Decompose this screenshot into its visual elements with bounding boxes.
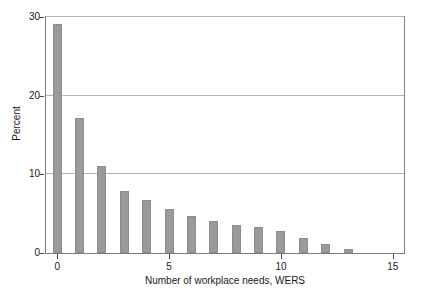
bar-chart-figure: Percent 0102030 051015 Number of workpla… [0,0,430,292]
bar [120,191,129,253]
x-tick-mark [393,254,394,259]
x-axis: 051015 [45,254,405,274]
bar [209,221,218,253]
bar [321,244,330,253]
y-axis: 0102030 [0,16,40,254]
x-tick-label: 10 [266,261,296,272]
y-tick-mark [39,17,44,18]
bar [299,238,308,253]
x-tick-label: 0 [42,261,72,272]
x-tick-mark [169,254,170,259]
y-tick-label: 30 [6,12,40,22]
gridline-y-30 [46,16,404,17]
bar [276,231,285,253]
x-axis-title: Number of workplace needs, WERS [45,275,405,286]
y-tick-label: 20 [6,91,40,101]
bar [97,166,106,253]
x-tick-mark [57,254,58,259]
plot-area [45,16,405,254]
y-tick-mark [39,174,44,175]
gridline-y-20 [46,95,404,96]
bar [75,118,84,253]
bar [232,225,241,253]
x-tick-mark [281,254,282,259]
y-tick-mark [39,253,44,254]
bar [142,200,151,253]
bar [53,24,62,253]
y-tick-label: 10 [6,169,40,179]
bar [344,249,353,253]
y-tick-label: 0 [6,248,40,258]
bar [187,216,196,253]
bar [165,209,174,253]
bar [254,227,263,253]
y-tick-mark [39,96,44,97]
x-tick-label: 5 [154,261,184,272]
x-tick-label: 15 [378,261,408,272]
